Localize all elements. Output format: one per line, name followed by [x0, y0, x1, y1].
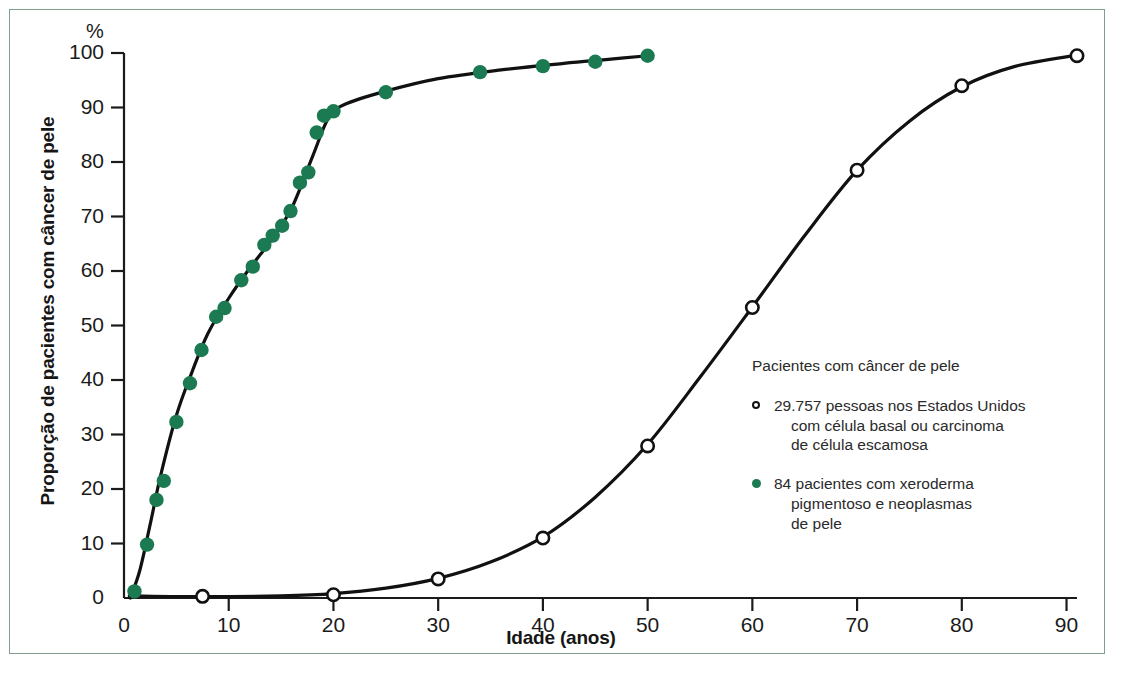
legend-line-1: 29.757 pessoas nos Estados Unidos [774, 397, 1026, 414]
data-point-filled [326, 104, 340, 118]
legend-line-3: de pele [774, 514, 1082, 534]
data-point-open [956, 80, 968, 92]
data-point-open [432, 573, 444, 585]
data-point-open [851, 164, 863, 176]
x-axis-title: Idade (anos) [0, 627, 1122, 649]
data-point-filled [234, 273, 248, 287]
legend-title: Pacientes com câncer de pele [752, 356, 1082, 376]
data-point-filled [640, 49, 654, 63]
chart-plot-area [0, 0, 1122, 683]
data-point-open [746, 301, 758, 313]
data-point-filled [301, 165, 315, 179]
legend-item-label: 29.757 pessoas nos Estados Unidos com cé… [774, 397, 1082, 455]
legend-line-2: com célula basal ou carcinoma [774, 416, 1082, 436]
data-point-open [641, 440, 653, 452]
filled-circle-marker-icon [752, 479, 761, 488]
legend-line-1: 84 pacientes com xeroderma [774, 475, 974, 492]
data-point-open [327, 589, 339, 601]
data-point-filled [140, 537, 154, 551]
data-point-filled [246, 259, 260, 273]
data-point-filled [169, 415, 183, 429]
data-point-open [196, 590, 208, 602]
legend-line-2: pigmentoso e neoplasmas [774, 494, 1082, 514]
legend-item-filled-circle: 84 pacientes com xeroderma pigmentoso e … [752, 474, 1082, 533]
data-point-filled [275, 219, 289, 233]
data-point-filled [379, 85, 393, 99]
data-point-filled [157, 474, 171, 488]
legend-item-label: 84 pacientes com xeroderma pigmentoso e … [774, 475, 1082, 533]
data-point-filled [194, 343, 208, 357]
legend-line-3: de célula escamosa [774, 435, 1082, 455]
data-point-filled [183, 376, 197, 390]
data-point-filled [283, 204, 297, 218]
data-point-filled [588, 55, 602, 69]
y-axis-title: Proporção de pacientes com câncer de pel… [37, 31, 59, 591]
data-point-filled [127, 584, 141, 598]
data-point-filled [217, 301, 231, 315]
data-point-open [1071, 50, 1083, 62]
data-point-filled [536, 59, 550, 73]
data-point-filled [309, 125, 323, 139]
data-point-open [537, 532, 549, 544]
chart-legend: Pacientes com câncer de pele 29.757 pess… [752, 356, 1082, 553]
legend-item-open-circle: 29.757 pessoas nos Estados Unidos com cé… [752, 396, 1082, 455]
data-point-filled [149, 493, 163, 507]
figure-container: % 1009080706050403020100 010203040506070… [0, 0, 1122, 683]
open-circle-marker-icon [752, 401, 760, 409]
data-point-filled [473, 65, 487, 79]
